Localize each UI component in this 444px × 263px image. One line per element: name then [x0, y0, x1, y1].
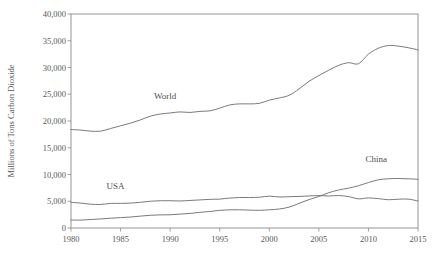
chart-canvas: 05,00010,00015,00020,00025,00030,00035,0…: [0, 0, 444, 263]
series-label-usa: USA: [107, 181, 126, 191]
x-axis-tickmarks: [71, 228, 418, 232]
y-axis-tick-labels: 05,00010,00015,00020,00025,00030,00035,0…: [43, 9, 66, 233]
series-inline-labels: WorldUSAChina: [107, 91, 388, 192]
series-line-usa: [71, 196, 418, 205]
series-line-world: [71, 45, 418, 131]
x-tick-label: 2010: [360, 234, 377, 244]
y-tick-label: 25,000: [43, 89, 66, 99]
y-tick-label: 10,000: [43, 170, 66, 180]
x-tick-label: 2005: [310, 234, 327, 244]
x-tick-label: 1990: [162, 234, 179, 244]
y-tick-label: 20,000: [43, 116, 66, 126]
y-tick-label: 40,000: [43, 9, 66, 19]
y-tick-label: 15,000: [43, 143, 66, 153]
co2-emissions-line-chart: 05,00010,00015,00020,00025,00030,00035,0…: [0, 0, 444, 263]
plot-frame-group: [71, 14, 418, 228]
y-axis-tickmarks: [68, 14, 72, 228]
data-series-lines: [71, 45, 418, 220]
y-tick-label: 5,000: [47, 196, 66, 206]
x-tick-label: 1980: [63, 234, 80, 244]
series-label-world: World: [154, 91, 177, 101]
y-tick-label: 35,000: [43, 36, 66, 46]
y-tick-label: 30,000: [43, 63, 66, 73]
x-tick-label: 2000: [261, 234, 278, 244]
x-tick-label: 2015: [410, 234, 427, 244]
plot-frame: [71, 14, 418, 228]
y-axis-title: Millions of Tons Carbon Dioxide: [6, 64, 16, 177]
x-tick-label: 1985: [112, 234, 129, 244]
x-tick-label: 1995: [211, 234, 228, 244]
series-label-china: China: [366, 154, 388, 164]
y-tick-label: 0: [62, 223, 66, 233]
x-axis-tick-labels: 19801985199019952000200520102015: [63, 234, 427, 244]
